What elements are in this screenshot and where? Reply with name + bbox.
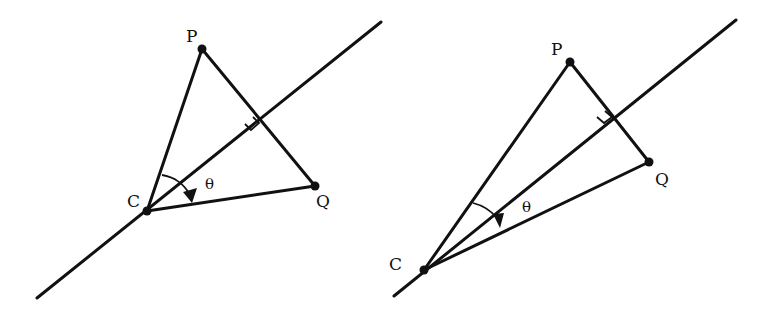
point-p-left xyxy=(198,45,207,54)
axis-line-left xyxy=(37,22,381,298)
figure-right: P Q C θ xyxy=(389,20,736,296)
segment-cq-right xyxy=(424,162,649,270)
figure-left: P Q C θ xyxy=(37,22,381,298)
segment-pq-left xyxy=(202,49,315,186)
arrowhead-icon-right xyxy=(493,213,504,228)
label-theta-right: θ xyxy=(522,198,531,216)
label-q-left: Q xyxy=(316,191,330,211)
label-c-left: C xyxy=(127,191,140,211)
arrowhead-icon-left xyxy=(183,188,197,203)
point-p-right xyxy=(566,58,575,67)
label-q-right: Q xyxy=(655,169,669,189)
point-c-right xyxy=(420,266,429,275)
segment-pq-right xyxy=(570,62,649,162)
diagram-canvas: P Q C θ P Q C θ xyxy=(0,0,768,314)
point-c-left xyxy=(143,207,152,216)
label-p-right: P xyxy=(551,39,562,59)
axis-line-right xyxy=(394,20,736,296)
label-c-right: C xyxy=(389,254,402,274)
segment-cp-right xyxy=(424,62,570,270)
point-q-right xyxy=(645,158,654,167)
label-theta-left: θ xyxy=(205,175,214,193)
point-q-left xyxy=(311,182,320,191)
label-p-left: P xyxy=(186,26,197,46)
